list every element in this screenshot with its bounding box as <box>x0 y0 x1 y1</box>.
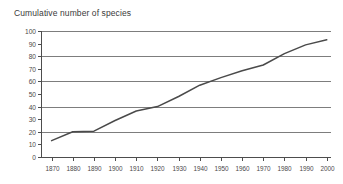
x-tick-label: 1940 <box>193 165 208 172</box>
y-tick-label: 40 <box>29 104 37 111</box>
x-tick-label: 1870 <box>45 165 60 172</box>
y-tick-label: 50 <box>29 91 37 98</box>
y-tick-label: 0 <box>32 154 36 161</box>
gridlines <box>41 32 331 133</box>
y-tick-label: 60 <box>29 78 37 85</box>
x-tick-label: 1890 <box>87 165 102 172</box>
x-tick-label: 1880 <box>66 165 81 172</box>
y-tick-label: 80 <box>29 53 37 60</box>
y-tick-label: 90 <box>29 41 37 48</box>
x-tick-label: 1970 <box>256 165 271 172</box>
y-tick-label: 20 <box>29 129 37 136</box>
y-tick-label: 70 <box>29 66 37 73</box>
chart-container: Cumulative number of species 01020304050… <box>0 0 343 184</box>
x-tick-label: 1990 <box>299 165 314 172</box>
x-tick-label: 1960 <box>235 165 250 172</box>
x-tick-label: 1950 <box>214 165 229 172</box>
x-tick-label: 2000 <box>320 165 335 172</box>
x-axis-tick-labels: 1870188018901900191019201930194019501960… <box>45 165 335 172</box>
y-tick-label: 100 <box>25 28 36 35</box>
y-tick-label: 30 <box>29 116 37 123</box>
y-tick-marks <box>38 32 41 158</box>
x-tick-label: 1930 <box>172 165 187 172</box>
line-chart-plot: 0102030405060708090100 18701880189019001… <box>0 0 343 184</box>
cumulative-species-line <box>52 40 327 141</box>
x-tick-label: 1910 <box>129 165 144 172</box>
x-tick-label: 1980 <box>277 165 292 172</box>
y-axis-tick-labels: 0102030405060708090100 <box>25 28 36 161</box>
x-tick-label: 1900 <box>108 165 123 172</box>
axis-lines <box>41 31 331 158</box>
y-tick-label: 10 <box>29 141 37 148</box>
x-tick-label: 1920 <box>150 165 165 172</box>
